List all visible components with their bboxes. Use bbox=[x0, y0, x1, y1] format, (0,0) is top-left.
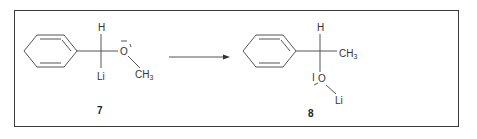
reaction-scheme: H Li O CH3 7 H CH3 I O Li 8 bbox=[0, 0, 477, 139]
benzene-ring-reactant bbox=[24, 35, 77, 67]
group-methyl: CH3 bbox=[135, 69, 153, 81]
bond-o-li bbox=[326, 85, 336, 94]
reaction-arrow bbox=[169, 55, 230, 60]
lone-pair-bar: I bbox=[312, 72, 315, 83]
compound-label-7: 7 bbox=[97, 105, 103, 116]
atom-h: H bbox=[98, 22, 105, 33]
group-methyl: CH3 bbox=[339, 48, 357, 60]
lone-pair-mark bbox=[130, 44, 131, 47]
product-8 bbox=[243, 34, 337, 94]
benzene-ring-product bbox=[243, 35, 296, 67]
atom-oxygen: O bbox=[120, 46, 128, 57]
atom-li: Li bbox=[335, 95, 343, 106]
compound-label-8: 8 bbox=[308, 108, 314, 119]
atom-li: Li bbox=[97, 71, 105, 82]
atom-oxygen: O bbox=[318, 73, 326, 84]
bond-o-ch3 bbox=[128, 56, 140, 68]
atom-h: H bbox=[317, 22, 324, 33]
arrowhead-icon bbox=[223, 55, 230, 60]
